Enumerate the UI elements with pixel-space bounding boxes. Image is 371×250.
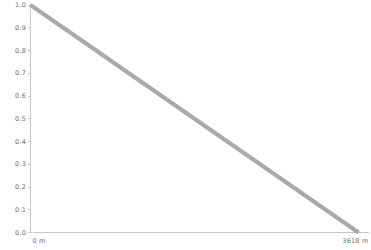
y-tick-label: 0.8: [4, 47, 26, 54]
y-tick-label: 0.1: [4, 207, 26, 214]
y-tick-label: 0.3: [4, 161, 26, 168]
y-tick-label: 0.6: [4, 93, 26, 100]
y-tick-label: 0.2: [4, 184, 26, 191]
data-series-layer: [31, 5, 359, 233]
plot-canvas: [0, 0, 371, 250]
x-tick-label: 3618 m: [0, 238, 369, 245]
y-tick-label: 0.0: [4, 229, 26, 236]
series-line-decay: [31, 5, 359, 233]
line-chart: 1.00.90.80.70.60.50.40.30.20.10.0 0 m361…: [0, 0, 371, 250]
y-tick-label: 1.0: [4, 2, 26, 9]
y-tick-label: 0.9: [4, 25, 26, 32]
y-tick-label: 0.7: [4, 70, 26, 77]
y-tick-label: 0.4: [4, 138, 26, 145]
y-tick-label: 0.5: [4, 116, 26, 123]
